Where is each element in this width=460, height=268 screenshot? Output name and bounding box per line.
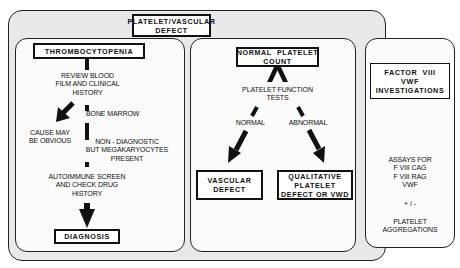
- step3-line3: HISTORY: [42, 190, 132, 198]
- arrow-cause-obvious: [56, 103, 73, 122]
- non-diagnostic-text: NON - DIAGNOSTIC BUT MEGAKARYOCYTES PRES…: [82, 138, 172, 163]
- plus-minus-label: + / -: [404, 200, 416, 207]
- autoimmune-screen-text: AUTOIMMUNE SCREEN AND CHECK DRUG HISTORY: [42, 173, 132, 198]
- review-blood-film-text: REVIEW BLOOD FILM AND CLINICAL HISTORY: [40, 72, 135, 97]
- diagnosis-label: DIAGNOSIS: [64, 232, 110, 241]
- platelet-function-tests-text: PLATELET FUNCTION TESTS: [235, 86, 320, 103]
- bone-marrow-label: BONE MARROW: [86, 110, 139, 117]
- qualitative-line3: DEFECT OR VWD: [281, 190, 349, 199]
- assays-text: ASSAYS FOR F VIII CAG F VIII RAG VWF: [367, 156, 453, 190]
- platelet-aggregations-text: PLATELET AGGREGATIONS: [367, 218, 453, 235]
- diagnosis-box: DIAGNOSIS: [54, 229, 120, 244]
- factor-line1: FACTOR VIII: [384, 68, 435, 77]
- factor-line2: VWF: [401, 77, 419, 86]
- qualitative-platelet-defect-box: QUALITATIVE PLATELET DEFECT OR VWD: [277, 170, 353, 200]
- factor-viii-vwf-box: FACTOR VIII VWF INVESTIGATIONS: [370, 63, 450, 99]
- step1-line3: HISTORY: [40, 89, 135, 97]
- test-line2: TESTS: [235, 94, 320, 102]
- qualitative-line2: PLATELET: [294, 181, 335, 190]
- non-diag-line2: BUT MEGAKARYOCYTES: [82, 146, 172, 154]
- step3-line1: AUTOIMMUNE SCREEN: [42, 173, 132, 181]
- bone-marrow-text: BONE MARROW: [86, 110, 146, 118]
- vascular-defect-box: VASCULAR DEFECT: [196, 170, 263, 200]
- cause-line1: CAUSE MAY: [25, 129, 75, 137]
- non-diag-line3: PRESENT: [82, 155, 172, 163]
- normal-platelet-count-box: NORMAL PLATELET COUNT: [236, 47, 319, 67]
- normal-branch-label: NORMAL: [228, 119, 273, 127]
- assays-line1: ASSAYS FOR: [367, 156, 453, 164]
- assays-line3: F VIII RAG: [367, 173, 453, 181]
- factor-line3: INVESTIGATIONS: [376, 86, 445, 95]
- step1-line1: REVIEW BLOOD: [40, 72, 135, 80]
- normal-platelet-line1: NORMAL PLATELET: [237, 48, 319, 57]
- cause-obvious-text: CAUSE MAY BE OBVIOUS: [25, 129, 75, 146]
- test-line1: PLATELET FUNCTION: [235, 86, 320, 94]
- plus-minus-text: + / -: [367, 200, 453, 208]
- qualitative-line1: QUALITATIVE: [288, 172, 341, 181]
- aggregations-line1: PLATELET: [367, 218, 453, 226]
- vascular-line2: DEFECT: [213, 185, 245, 194]
- thrombocytopenia-box: THROMBOCYTOPENIA: [33, 43, 145, 59]
- step3-line2: AND CHECK DRUG: [42, 181, 132, 189]
- step1-line2: FILM AND CLINICAL: [40, 80, 135, 88]
- assays-line4: VWF: [367, 181, 453, 189]
- vascular-line1: VASCULAR: [207, 176, 251, 185]
- non-diag-line1: NON - DIAGNOSTIC: [82, 138, 172, 146]
- cause-line2: BE OBVIOUS: [25, 137, 75, 145]
- aggregations-line2: AGGREGATIONS: [367, 226, 453, 234]
- assays-line2: F VIII CAG: [367, 164, 453, 172]
- abnormal-branch-label: ABNORMAL: [283, 119, 333, 127]
- normal-label: NORMAL: [236, 119, 265, 126]
- normal-platelet-line2: COUNT: [263, 57, 292, 66]
- thrombocytopenia-label: THROMBOCYTOPENIA: [45, 47, 134, 56]
- abnormal-label: ABNORMAL: [289, 119, 328, 126]
